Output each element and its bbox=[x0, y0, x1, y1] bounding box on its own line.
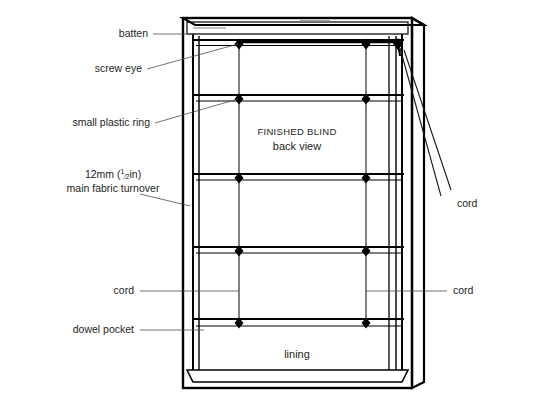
frame-right-perspective-face bbox=[412, 18, 424, 388]
leader-small-plastic-ring bbox=[155, 99, 238, 123]
dowel-pocket-row bbox=[193, 174, 404, 180]
diagram-canvas: batten screw eye small plastic ring 12mm… bbox=[0, 0, 554, 406]
top-cord-run bbox=[239, 42, 400, 56]
lining-hem-perspective bbox=[187, 370, 408, 382]
fabric-panel bbox=[187, 34, 408, 382]
blind-outer-frame bbox=[183, 18, 424, 388]
leader-lines bbox=[140, 34, 447, 330]
label-screw-eye: screw eye bbox=[95, 62, 142, 74]
label-back-view: back view bbox=[273, 140, 321, 152]
label-cord-right: cord bbox=[453, 284, 474, 296]
ring-group bbox=[235, 38, 404, 329]
dowel-pocket-rows bbox=[193, 40, 404, 326]
exit-cord-1 bbox=[400, 48, 441, 196]
label-finished-blind: FINISHED BLIND bbox=[257, 126, 336, 137]
blind-front-panel bbox=[183, 18, 412, 388]
label-turnover-line2: main fabric turnover bbox=[67, 182, 160, 194]
label-turnover-line1: 12mm (1⁄2in) bbox=[85, 168, 141, 180]
exit-cords bbox=[400, 48, 451, 196]
label-batten: batten bbox=[119, 27, 148, 39]
turnover-prefix: 12mm ( bbox=[85, 168, 121, 180]
label-lining: lining bbox=[284, 348, 310, 360]
roman-blind-back-view-diagram: batten screw eye small plastic ring 12mm… bbox=[0, 0, 554, 406]
dowel-pocket-row bbox=[193, 95, 404, 101]
label-small-plastic-ring: small plastic ring bbox=[72, 116, 150, 128]
dowel-pocket-row bbox=[193, 247, 404, 253]
turnover-suffix: in) bbox=[129, 168, 141, 180]
label-cord-top-right: cord bbox=[457, 197, 478, 209]
label-dowel-pocket: dowel pocket bbox=[73, 323, 134, 335]
dowel-pocket-row bbox=[193, 319, 404, 326]
batten-strip bbox=[187, 21, 408, 34]
label-cord-left: cord bbox=[114, 284, 135, 296]
